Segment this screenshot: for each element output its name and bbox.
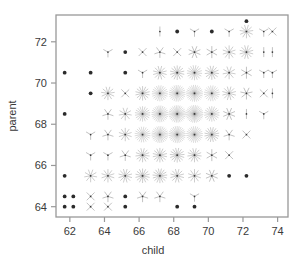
sunflower-marker — [139, 48, 147, 56]
sunflower-marker — [102, 192, 113, 202]
sunflower-marker — [135, 127, 151, 143]
y-axis-ticks — [51, 42, 56, 207]
x-tick-label: 68 — [168, 225, 180, 237]
sunflower-marker — [259, 70, 268, 78]
y-tick-label: 70 — [35, 77, 47, 89]
sunflower-marker — [204, 127, 219, 142]
sunflower-marker — [175, 205, 179, 209]
sunflower-marker — [222, 87, 235, 100]
sunflower-marker — [169, 105, 186, 122]
x-tick-label: 64 — [98, 225, 110, 237]
sunflower-marker — [173, 48, 181, 56]
sunflower-marker — [159, 27, 161, 37]
sunflower-marker — [123, 205, 127, 209]
sunflower-marker — [119, 169, 132, 182]
sunflower-marker — [123, 194, 127, 198]
sunflower-marker — [189, 46, 201, 58]
sunflower-marker — [268, 28, 276, 36]
sunflower-marker — [63, 205, 67, 209]
sunflower-marker — [207, 46, 217, 58]
sunflower-marker — [259, 29, 268, 37]
x-tick-label: 66 — [133, 225, 145, 237]
sunflower-marker — [245, 174, 249, 178]
x-axis-title: child — [0, 244, 306, 256]
sunflower-marker — [260, 89, 268, 97]
sunflower-marker — [204, 106, 219, 121]
sunflower-marker — [151, 106, 168, 123]
sunflower-marker — [154, 47, 165, 57]
sunflower-marker — [170, 169, 183, 182]
sunflower-marker — [170, 148, 185, 163]
sunflower-marker — [268, 70, 277, 78]
sunflower-marker — [204, 85, 220, 101]
sunflower-marker — [86, 153, 95, 161]
sunflower-marker — [153, 148, 167, 162]
sunflower-marker — [136, 86, 150, 100]
sunflower-marker — [123, 71, 127, 75]
sunflower-marker — [227, 174, 231, 178]
sunflower-marker — [223, 67, 236, 80]
sunflower-marker — [71, 205, 75, 209]
sunflower-marker — [136, 148, 150, 162]
sunflower-marker — [188, 169, 201, 182]
sunflower-marker — [223, 108, 235, 120]
x-tick-label: 72 — [237, 225, 249, 237]
plot-frame — [56, 15, 288, 217]
sunflower-marker — [121, 89, 129, 97]
sunflower-marker — [89, 91, 93, 95]
sunflower-marker — [210, 30, 214, 34]
sunflower-marker — [102, 130, 113, 140]
y-tick-label: 68 — [35, 118, 47, 130]
sunflower-marker — [102, 109, 113, 119]
sunflower-marker — [245, 19, 249, 23]
sunflower-marker — [87, 203, 95, 211]
sunflower-marker — [187, 148, 201, 162]
sunflower-marker — [101, 87, 115, 100]
sunflower-marker — [205, 66, 219, 80]
sunflower-marker — [86, 132, 95, 140]
sunflower-marker — [223, 45, 236, 58]
x-tick-label: 62 — [64, 225, 76, 237]
sunflower-marker — [241, 67, 251, 79]
sunflower-marker — [123, 50, 127, 54]
sunflower-marker — [263, 47, 265, 57]
sunflower-marker — [63, 174, 67, 178]
sunflower-marker — [103, 153, 112, 161]
plot-canvas: 62646668707274 6466687072 — [0, 0, 306, 268]
sunflower-marker — [154, 192, 165, 202]
sunflower-marker — [103, 49, 112, 57]
y-tick-labels: 6466687072 — [35, 36, 47, 213]
x-tick-label: 70 — [202, 225, 214, 237]
sunflower-marker — [259, 111, 268, 119]
sunflower-marker — [104, 203, 112, 211]
x-tick-labels: 62646668707274 — [64, 225, 284, 237]
x-axis-ticks — [70, 217, 278, 222]
data-sunflowers — [63, 19, 277, 210]
sunflower-marker — [84, 170, 97, 183]
sunflower-marker — [240, 88, 252, 100]
sunflower-marker — [246, 109, 248, 119]
sunflower-plot-figure: 62646668707274 6466687072 child parent — [0, 0, 306, 268]
sunflower-marker — [169, 85, 186, 102]
sunflower-marker — [225, 29, 234, 37]
sunflower-marker — [169, 126, 186, 143]
sunflower-marker — [272, 47, 274, 57]
sunflower-marker — [243, 131, 251, 139]
sunflower-marker — [87, 192, 95, 200]
sunflower-marker — [102, 169, 115, 182]
sunflower-marker — [240, 45, 253, 58]
sunflower-marker — [207, 149, 217, 161]
sunflower-marker — [151, 126, 168, 143]
sunflower-marker — [71, 194, 75, 198]
y-tick-label: 72 — [35, 36, 47, 48]
sunflower-marker — [193, 205, 197, 209]
sunflower-marker — [240, 25, 254, 38]
sunflower-marker — [138, 70, 147, 78]
sunflower-marker — [190, 29, 199, 37]
sunflower-marker — [186, 126, 203, 143]
sunflower-marker — [63, 112, 67, 116]
sunflower-marker — [119, 128, 132, 141]
sunflower-marker — [119, 108, 132, 121]
sunflower-marker — [187, 65, 202, 80]
sunflower-marker — [152, 85, 168, 101]
